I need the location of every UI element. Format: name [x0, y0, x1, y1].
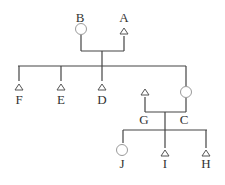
- label-D: D: [97, 92, 106, 107]
- individual-I: I: [161, 150, 169, 171]
- label-I: I: [163, 156, 167, 171]
- label-A: A: [119, 10, 129, 25]
- union-line-GC: [123, 97, 207, 148]
- union-line-BA: [18, 35, 186, 86]
- individual-H: H: [201, 150, 210, 171]
- female-circle-icon: [76, 24, 87, 35]
- individual-J: J: [117, 145, 128, 172]
- individual-F: F: [15, 84, 23, 107]
- pedigree-diagram: B A F E D C G: [0, 0, 225, 185]
- label-B: B: [76, 10, 85, 25]
- pedigree-canvas: B A F E D C G: [0, 0, 225, 185]
- label-C: C: [180, 112, 189, 127]
- label-H: H: [201, 156, 210, 171]
- individual-B: B: [76, 10, 87, 35]
- male-triangle-icon: [120, 28, 128, 34]
- individual-D: D: [97, 84, 106, 107]
- individual-E: E: [57, 84, 65, 107]
- label-G: G: [139, 112, 148, 127]
- female-circle-icon: [181, 87, 192, 98]
- male-triangle-icon: [15, 84, 23, 90]
- label-J: J: [119, 156, 124, 171]
- male-triangle-icon: [141, 89, 149, 95]
- male-triangle-icon: [57, 84, 65, 90]
- female-circle-icon: [117, 145, 128, 156]
- label-E: E: [57, 92, 65, 107]
- individual-A: A: [119, 10, 129, 34]
- male-triangle-icon: [98, 84, 106, 90]
- individual-G: G: [139, 89, 149, 127]
- label-F: F: [15, 92, 22, 107]
